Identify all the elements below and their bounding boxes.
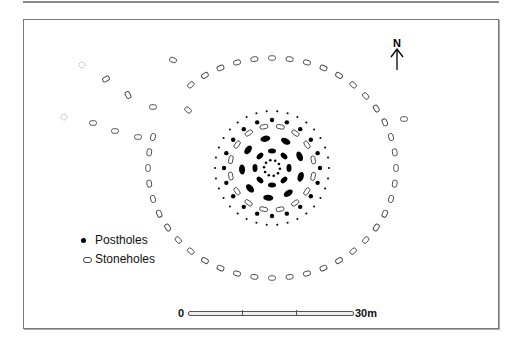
scale-end: 30m (355, 307, 377, 319)
legend-stoneholes: Stoneholes (95, 252, 155, 266)
scale-bar-line (188, 311, 354, 316)
site-plan (0, 0, 516, 349)
scale-start: 0 (178, 307, 184, 319)
north-label: N (393, 37, 401, 49)
legend-postholes: Postholes (95, 233, 148, 247)
posthole-symbol-icon (81, 238, 86, 243)
stonehole-symbol-icon (83, 257, 92, 263)
scale-tick (296, 310, 297, 316)
scale-tick (242, 310, 243, 316)
